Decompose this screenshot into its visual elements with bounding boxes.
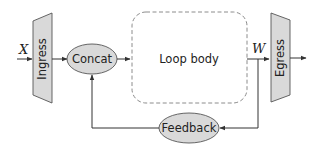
loop-body-label: Loop body — [159, 52, 219, 66]
w-label: W — [252, 41, 267, 56]
feedback-label: Feedback — [162, 121, 217, 135]
input-x-label: X — [18, 42, 29, 57]
feedback-to-concat-edge — [92, 75, 159, 128]
concat-label: Concat — [72, 52, 113, 66]
diagram-canvas: X Ingress Concat Loop body W Egress Feed… — [0, 0, 322, 154]
feedback-node: Feedback — [159, 113, 219, 143]
concat-node: Concat — [67, 44, 117, 74]
loop-body-node: Loop body — [132, 12, 247, 103]
ingress-label: Ingress — [35, 38, 49, 80]
ingress-node: Ingress — [33, 13, 52, 103]
egress-node: Egress — [271, 13, 290, 102]
egress-label: Egress — [273, 39, 287, 77]
w-to-feedback-edge — [220, 59, 258, 128]
